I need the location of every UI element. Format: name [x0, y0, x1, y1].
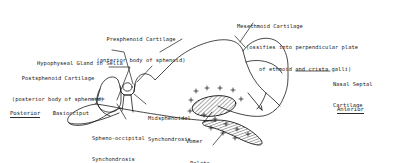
label-mesethmoid-line1: Mesethmoid Cartilage — [237, 23, 358, 30]
leader-midsphenoidal — [134, 94, 146, 104]
label-midsphenoidal-line1: Midsphenoidal — [148, 115, 191, 122]
midsphenoidal-synchondrosis-cleft — [131, 95, 133, 112]
leader-palate — [213, 133, 223, 145]
palate-shape — [202, 120, 262, 145]
label-midsphenoidal-synchondrosis: Midsphenoidal Synchondrosis — [148, 101, 191, 158]
vomer-shape — [191, 93, 237, 119]
label-vomer-line1: Vomer — [186, 138, 202, 145]
label-postsphenoid-line1: Postsphenoid Cartilage — [6, 75, 110, 82]
leader-spheno-occipital — [117, 104, 126, 119]
label-nasal-septal-cartilage: Nasal Septal Cartilage — [333, 67, 373, 124]
label-spheno-occipital-synchondrosis: Spheno-occipital Synchondrosis — [92, 121, 145, 163]
septal-pointer-arrow — [248, 93, 262, 110]
orientation-anterior: Anterior — [337, 106, 364, 114]
anatomical-figure: Presphenoid Cartilage (anterior body of … — [0, 0, 393, 163]
label-palate-line1: Palate — [190, 160, 210, 163]
label-mesethmoid-line2: (ossifies into perpendicular plate — [237, 44, 358, 51]
label-presphenoid-line1: Presphenoid Cartilage — [78, 36, 204, 43]
label-palate: Palate — [190, 146, 210, 163]
label-nasal-septal-line1: Nasal Septal — [333, 81, 373, 88]
label-spheno-occipital-line1: Spheno-occipital — [92, 135, 145, 142]
hypophyseal-fossa — [123, 83, 132, 91]
label-spheno-occipital-line2: Synchondrosis — [92, 156, 145, 163]
label-midsphenoidal-line2: Synchondrosis — [148, 136, 191, 143]
orientation-posterior: Posterior — [10, 110, 40, 118]
